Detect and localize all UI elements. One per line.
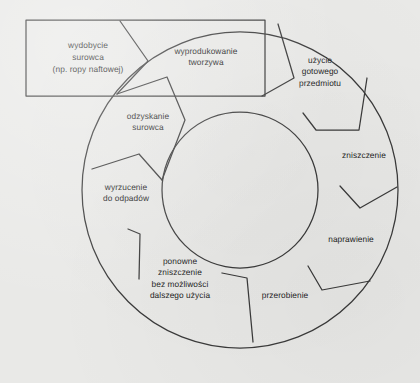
divider-reprocess-finaldestroy <box>222 273 253 342</box>
divider-use-destroy <box>303 78 367 130</box>
divider-recover-produce <box>117 21 148 94</box>
divider-finaldestroy-discard <box>128 229 140 279</box>
divider-discard-recover <box>92 154 162 180</box>
outer-circle <box>82 32 398 348</box>
recover-wedge-notch <box>117 77 185 180</box>
figure-root: wydobycie surowca (np. ropy naftowej) wy… <box>0 0 420 383</box>
divider-destroy-repair <box>340 186 397 208</box>
inner-circle <box>162 112 318 268</box>
cycle-diagram <box>0 0 420 383</box>
divider-repair-reprocess <box>308 266 370 290</box>
